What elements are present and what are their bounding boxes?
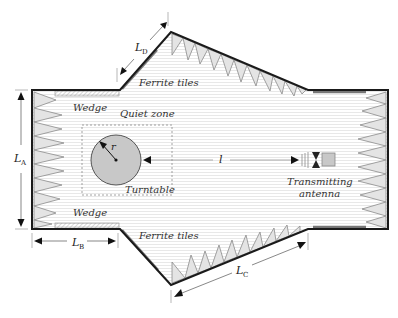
label-wedge-top: Wedge [73,102,107,113]
dimension-LA: L A [13,90,28,229]
svg-text:C: C [243,271,248,279]
anechoic-chamber-diagram: Ferrite tiles Ferrite tiles Wedge Wedge … [0,0,398,318]
label-ferrite-bottom: Ferrite tiles [138,230,199,241]
wedge-strip-top [55,91,119,96]
label-wedge-bottom: Wedge [73,207,107,218]
label-distance: l [219,153,223,166]
svg-text:A: A [20,159,27,167]
label-turntable: Turntable [125,184,175,195]
svg-text:B: B [79,243,84,251]
label-quiet-zone: Quiet zone [120,108,175,119]
svg-text:D: D [142,48,148,56]
wedge-strip-bottom [55,223,119,228]
label-ferrite-top: Ferrite tiles [138,77,199,88]
label-antenna-line2: antenna [299,188,340,199]
label-antenna-line1: Transmitting [287,176,353,187]
dimension-LB: L B [32,233,118,251]
